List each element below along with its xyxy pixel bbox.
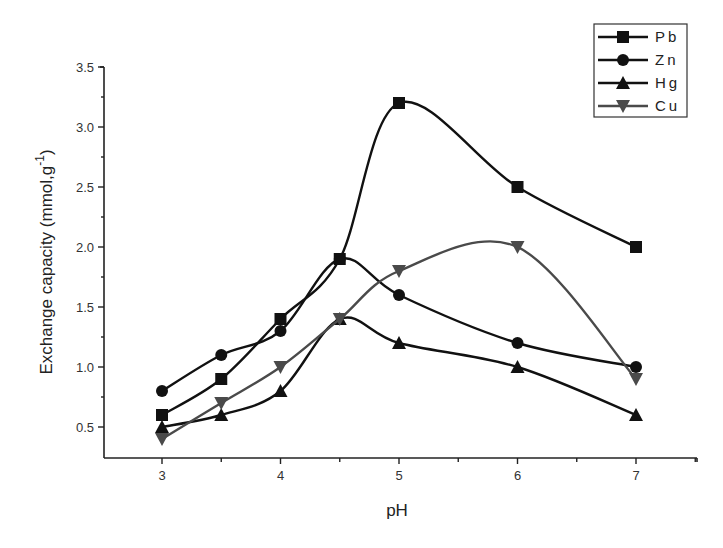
square-marker-icon (630, 241, 642, 253)
y-tick-label: 3.0 (76, 120, 94, 135)
series-line (162, 317, 636, 427)
y-tick-label: 1.5 (76, 300, 94, 315)
square-marker-icon (393, 97, 405, 109)
series-layer (155, 97, 643, 446)
y-tick-label: 2.0 (76, 240, 94, 255)
series-pb (156, 97, 642, 421)
legend: PbZnHgCu (594, 24, 687, 117)
circle-marker-icon (156, 385, 168, 397)
x-tick-label: 7 (632, 468, 639, 483)
square-marker-icon (156, 409, 168, 421)
legend-label: Hg (655, 74, 680, 91)
triangle-down-marker-icon (155, 433, 169, 446)
y-tick-label: 1.0 (76, 360, 94, 375)
axes: 0.51.01.52.02.53.03.534567 (76, 60, 697, 483)
circle-marker-icon (215, 349, 227, 361)
triangle-up-marker-icon (629, 408, 643, 421)
circle-marker-icon (334, 253, 346, 265)
square-marker-icon (215, 373, 227, 385)
circle-marker-icon (630, 361, 642, 373)
line-chart: 0.51.01.52.02.53.03.534567 PbZnHgCu pH E… (0, 0, 723, 548)
circle-marker-icon (617, 54, 629, 66)
y-tick-label: 0.5 (76, 420, 94, 435)
triangle-down-marker-icon (629, 373, 643, 386)
y-tick-label: 2.5 (76, 180, 94, 195)
series-line (162, 258, 636, 391)
legend-label: Zn (655, 51, 679, 68)
circle-marker-icon (512, 337, 524, 349)
series-line (162, 102, 636, 415)
x-axis-title: pH (386, 501, 408, 520)
triangle-down-marker-icon (214, 397, 228, 410)
triangle-down-marker-icon (274, 361, 288, 374)
x-tick-label: 4 (277, 468, 284, 483)
x-tick-label: 6 (514, 468, 521, 483)
square-marker-icon (275, 313, 287, 325)
square-marker-icon (617, 31, 629, 43)
x-tick-label: 5 (395, 468, 402, 483)
y-tick-label: 3.5 (76, 60, 94, 75)
legend-label: Cu (655, 97, 680, 114)
circle-marker-icon (393, 289, 405, 301)
square-marker-icon (512, 181, 524, 193)
triangle-down-marker-icon (511, 241, 525, 254)
circle-marker-icon (275, 325, 287, 337)
y-axis-title: Exchange capacity (mmol,g-1) (33, 149, 56, 374)
legend-label: Pb (655, 28, 679, 45)
triangle-down-marker-icon (392, 265, 406, 278)
x-tick-label: 3 (158, 468, 165, 483)
